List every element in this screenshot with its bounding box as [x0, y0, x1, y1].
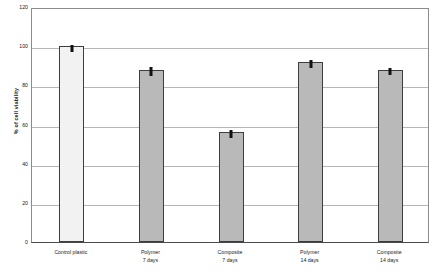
x-axis-tick-labels: Control plasticPolymer7 daysComposite7 d… [31, 248, 429, 274]
error-bar [309, 60, 312, 68]
y-axis-title: % of cell viability [13, 61, 19, 161]
x-axis-tick-label-line: 7 days [185, 256, 275, 264]
error-bar [230, 130, 233, 138]
y-axis-tick-label: 100 [4, 44, 28, 49]
x-axis-tick-label-line: Composite [185, 248, 275, 256]
x-axis-tick-label: Composite14 days [344, 248, 434, 264]
bar [378, 70, 403, 242]
y-axis-tick-label: 40 [4, 162, 28, 167]
bar [298, 62, 323, 242]
x-axis-tick-label-line: 14 days [344, 256, 434, 264]
y-axis-tick-label: 60 [4, 123, 28, 128]
error-bar [70, 45, 73, 52]
bars-layer [32, 9, 428, 242]
x-axis-tick-label: Control plastic [26, 248, 116, 256]
x-axis-tick-label: Polymer7 days [105, 248, 195, 264]
error-bar [150, 67, 153, 76]
plot-area [31, 8, 429, 243]
bar [139, 70, 164, 242]
bar [219, 132, 244, 242]
x-axis-tick-label: Composite7 days [185, 248, 275, 264]
bar-chart: % of cell viability 020406080100120 Cont… [0, 0, 434, 276]
y-axis-tick-label: 0 [4, 240, 28, 245]
x-axis-tick-label-line: Polymer [105, 248, 195, 256]
x-axis-tick-label: Polymer14 days [265, 248, 355, 264]
y-axis-tick-label: 120 [4, 5, 28, 10]
x-axis-tick-label-line: Composite [344, 248, 434, 256]
x-axis-tick-label-line: Control plastic [26, 248, 116, 256]
error-bar [389, 68, 392, 75]
x-axis-tick-label-line: 14 days [265, 256, 355, 264]
x-axis-tick-label-line: 7 days [105, 256, 195, 264]
y-axis-tick-label: 80 [4, 83, 28, 88]
bar [59, 46, 84, 242]
x-axis-tick-label-line: Polymer [265, 248, 355, 256]
y-axis-tick-label: 20 [4, 201, 28, 206]
